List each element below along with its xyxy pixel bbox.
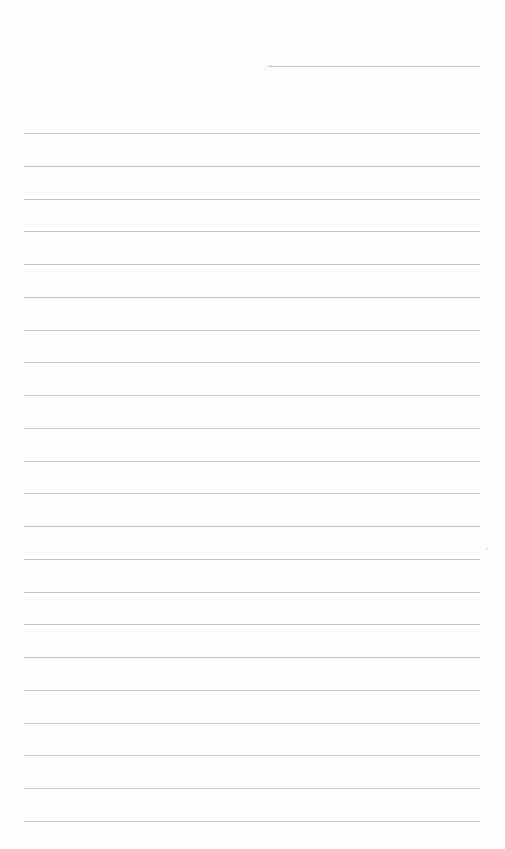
ruled-line: [24, 821, 480, 822]
ruled-line: [24, 362, 480, 363]
ruled-line: [24, 690, 480, 691]
ruled-line: [24, 592, 480, 593]
paper-speck: [486, 548, 488, 550]
ruled-line: [24, 526, 480, 527]
ruled-line: [24, 428, 480, 429]
ruled-line: [24, 559, 480, 560]
ruled-line: [24, 231, 480, 232]
ruled-line: [24, 755, 480, 756]
ruled-line: [24, 297, 480, 298]
header-name-line: [268, 66, 480, 67]
ruled-line: [24, 264, 480, 265]
ruled-line: [24, 723, 480, 724]
ruled-line: [24, 657, 480, 658]
ruled-line: [24, 166, 480, 167]
ruled-line: [24, 624, 480, 625]
lined-paper-page: [0, 0, 505, 849]
ruled-line: [24, 461, 480, 462]
ruled-line: [24, 395, 480, 396]
ruled-line: [24, 788, 480, 789]
ruled-line: [24, 199, 480, 200]
ruled-line: [24, 493, 480, 494]
ruled-line: [24, 330, 480, 331]
ruled-line: [24, 133, 480, 134]
